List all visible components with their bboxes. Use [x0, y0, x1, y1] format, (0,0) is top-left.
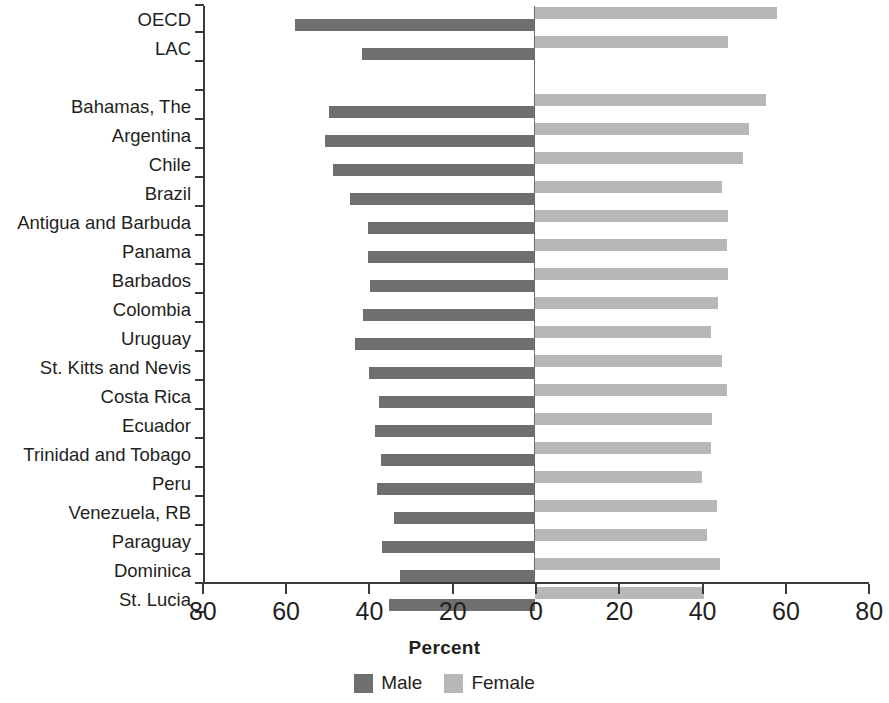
x-axis-tick: [702, 584, 704, 594]
x-axis-tick: [785, 584, 787, 594]
x-axis-tick: [202, 584, 204, 594]
chart-row: Bahamas, The: [0, 93, 889, 122]
y-axis-tick: [195, 118, 204, 120]
x-axis-tick: [535, 584, 537, 594]
x-axis-tick-label: 60: [251, 596, 321, 626]
bar-female: [535, 268, 728, 280]
y-axis-tick: [195, 292, 204, 294]
chart-row: Chile: [0, 151, 889, 180]
bar-male: [355, 338, 535, 350]
bar-male: [379, 396, 535, 408]
plot-area: OECDLACBahamas, TheArgentinaChileBrazilA…: [0, 0, 889, 600]
y-axis-tick: [195, 263, 204, 265]
chart-row: Barbados: [0, 267, 889, 296]
bar-female: [535, 297, 718, 309]
legend-item: Male: [354, 672, 422, 694]
category-label: Trinidad and Tobago: [23, 444, 191, 466]
category-label: Dominica: [114, 560, 191, 582]
x-axis-tick: [452, 584, 454, 594]
category-label: Bahamas, The: [71, 96, 191, 118]
category-label: Paraguay: [112, 531, 191, 553]
x-axis-tick: [868, 584, 870, 594]
category-label: Ecuador: [122, 415, 191, 437]
category-label: Antigua and Barbuda: [17, 212, 191, 234]
chart-row: Trinidad and Tobago: [0, 441, 889, 470]
legend-swatch-icon: [354, 674, 373, 693]
y-axis-tick: [195, 4, 204, 6]
legend-swatch-icon: [444, 674, 463, 693]
bar-male: [375, 425, 535, 437]
category-label: Barbados: [112, 270, 191, 292]
x-axis-tick-label: 60: [751, 596, 821, 626]
y-axis-tick: [195, 437, 204, 439]
y-axis-tick: [195, 60, 204, 62]
chart-row: Venezuela, RB: [0, 499, 889, 528]
x-axis-tick-label: 20: [418, 596, 488, 626]
x-axis-tick-label: 40: [334, 596, 404, 626]
bar-female: [535, 36, 728, 48]
chart-row: Argentina: [0, 122, 889, 151]
bar-male: [325, 135, 535, 147]
x-axis-title: Percent: [0, 637, 889, 659]
bar-female: [535, 94, 766, 106]
bar-male: [381, 454, 535, 466]
y-axis-tick: [195, 176, 204, 178]
bar-male: [369, 367, 535, 379]
x-axis-tick-label: 80: [834, 596, 889, 626]
category-label: Uruguay: [121, 328, 191, 350]
y-axis-tick: [195, 379, 204, 381]
bar-male: [362, 48, 535, 60]
x-axis-tick-label: 0: [501, 596, 571, 626]
chart-row: Uruguay: [0, 325, 889, 354]
bar-male: [368, 251, 535, 263]
chart-legend: MaleFemale: [0, 672, 889, 694]
chart-row: LAC: [0, 35, 889, 64]
y-axis-tick: [195, 553, 204, 555]
x-axis-tick-label: 40: [668, 596, 738, 626]
bar-male: [350, 193, 535, 205]
bar-male: [377, 483, 535, 495]
category-label: Panama: [122, 241, 191, 263]
bar-female: [535, 239, 727, 251]
bar-female: [535, 210, 728, 222]
bar-male: [400, 570, 535, 582]
category-label: OECD: [138, 9, 191, 31]
chart-row: OECD: [0, 6, 889, 35]
bar-male: [333, 164, 535, 176]
y-axis-tick: [195, 89, 204, 91]
chart-row: St. Kitts and Nevis: [0, 354, 889, 383]
bar-female: [535, 384, 727, 396]
bar-female: [535, 123, 749, 135]
bar-female: [535, 355, 722, 367]
y-axis-tick: [195, 234, 204, 236]
x-axis-tick: [368, 584, 370, 594]
bar-female: [535, 326, 711, 338]
y-axis-tick: [195, 147, 204, 149]
chart-row: Antigua and Barbuda: [0, 209, 889, 238]
chart-container: OECDLACBahamas, TheArgentinaChileBrazilA…: [0, 0, 889, 703]
bar-female: [535, 152, 743, 164]
bar-female: [535, 500, 717, 512]
bar-male: [368, 222, 535, 234]
category-label: LAC: [155, 38, 191, 60]
category-label: Argentina: [112, 125, 191, 147]
category-label: Venezuela, RB: [69, 502, 191, 524]
chart-row: Paraguay: [0, 528, 889, 557]
bar-female: [535, 181, 722, 193]
y-axis-tick: [195, 495, 204, 497]
bar-female: [535, 7, 777, 19]
category-label: Brazil: [145, 183, 191, 205]
y-axis-tick: [195, 205, 204, 207]
category-label: Colombia: [113, 299, 191, 321]
x-axis-tick: [285, 584, 287, 594]
x-axis-tick-label: 80: [168, 596, 238, 626]
bar-female: [535, 442, 711, 454]
legend-item: Female: [444, 672, 534, 694]
bar-male: [363, 309, 535, 321]
chart-row: Colombia: [0, 296, 889, 325]
y-axis-tick: [195, 31, 204, 33]
y-axis-tick: [195, 524, 204, 526]
chart-row: Panama: [0, 238, 889, 267]
bar-female: [535, 529, 707, 541]
category-label: St. Kitts and Nevis: [40, 357, 191, 379]
